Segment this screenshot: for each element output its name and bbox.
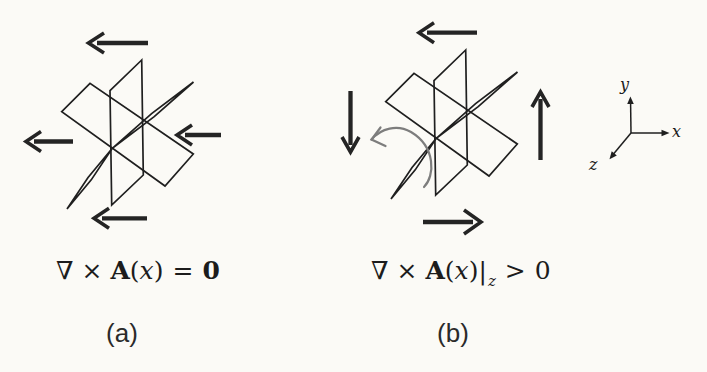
variable-x: x <box>455 256 469 285</box>
z-subscript: z <box>488 272 496 290</box>
field-arrow-top-left <box>89 33 149 53</box>
field-arrow-right-left <box>177 125 221 145</box>
field-arrow-left-down <box>342 91 359 152</box>
zero-scalar: 0 <box>535 256 551 285</box>
field-arrow-bottom-left <box>94 208 147 228</box>
x-axis-label: x <box>672 122 681 141</box>
coordinate-axes <box>610 97 670 160</box>
nabla-symbol: ∇ <box>56 256 73 285</box>
times-symbol: × <box>81 256 102 285</box>
caption-a: (a) <box>94 318 150 349</box>
close-paren: ) <box>469 256 479 285</box>
y-axis-label: y <box>620 75 629 94</box>
formula-a: ∇×A(x)=0 <box>56 256 220 286</box>
variable-x: x <box>140 256 154 285</box>
z-axis <box>614 133 632 154</box>
evaluation-bar: | <box>478 256 486 285</box>
panel-a-paddle-wheel <box>62 60 194 209</box>
caption-b: (b) <box>425 318 481 349</box>
x-axis-arrowhead-icon <box>662 130 670 136</box>
greater-than-symbol: > <box>505 256 526 285</box>
paddle-vertical-blade <box>110 60 143 205</box>
equals-symbol: = <box>172 256 193 285</box>
diagram-layer <box>0 0 707 372</box>
field-arrow-right-up <box>532 92 549 160</box>
times-symbol: × <box>396 256 417 285</box>
zero-vector: 0 <box>202 256 219 285</box>
panel-b-paddle-wheel <box>386 50 518 199</box>
open-paren: ( <box>445 256 455 285</box>
field-arrow-left-left <box>26 132 73 152</box>
formula-b: ∇×A(x)|z>0 <box>371 256 551 296</box>
paddle-edge-blade-lower-left <box>391 138 436 199</box>
z-axis-label: z <box>589 155 597 174</box>
vector-field-symbol: A <box>110 256 129 285</box>
vector-field-symbol: A <box>425 256 444 285</box>
nabla-symbol: ∇ <box>371 256 388 285</box>
paddle-edge-blade-lower-left <box>67 148 112 209</box>
paddle-vertical-blade <box>434 50 467 195</box>
rotation-arrow-counterclockwise <box>372 128 432 188</box>
field-arrow-bottom-right <box>423 210 481 234</box>
field-arrow-top-left <box>419 23 477 43</box>
y-axis-arrowhead-icon <box>627 97 634 105</box>
paddle-edge-blade-upper-right <box>436 72 517 138</box>
figure-canvas: ∇×A(x)=0 ∇×A(x)|z>0 (a) (b) y x z <box>0 0 707 372</box>
close-paren: ) <box>154 256 164 285</box>
open-paren: ( <box>130 256 140 285</box>
